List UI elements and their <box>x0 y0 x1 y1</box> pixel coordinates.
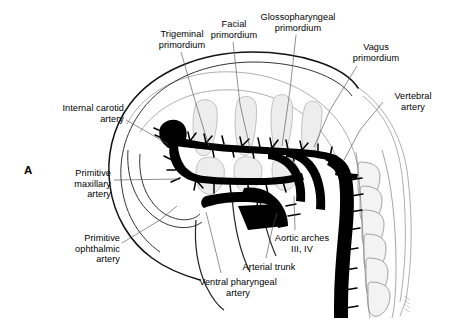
panel-letter-a: A <box>24 164 32 176</box>
leader-aortic-arches <box>294 196 295 230</box>
figure-panel-a: A Trigeminal primordium Facial primordiu… <box>0 0 451 332</box>
label-glossopharyngeal-primordium: Glossopharyngeal primordium <box>252 12 344 33</box>
label-ventral-pharyngeal-artery: Ventral pharyngeal artery <box>186 277 290 298</box>
label-vertebral-artery: Vertebral artery <box>385 91 441 112</box>
label-vagus-primordium: Vagus primordium <box>343 42 409 63</box>
label-aortic-arches: Aortic arches III, IV <box>262 233 342 254</box>
label-internal-carotid-artery: Internal carotid artery <box>38 103 124 124</box>
leader-maxillary <box>114 179 180 180</box>
label-arterial-trunk: Arterial trunk <box>233 262 305 273</box>
somite-column <box>356 150 396 318</box>
label-primitive-maxillary-artery: Primitive maxillary artery <box>57 168 111 200</box>
leader-ventral-pharyngeal <box>206 212 221 273</box>
artist-signature <box>404 296 410 312</box>
label-primitive-ophthalmic-artery: Primitive ophthalmic artery <box>58 233 120 265</box>
